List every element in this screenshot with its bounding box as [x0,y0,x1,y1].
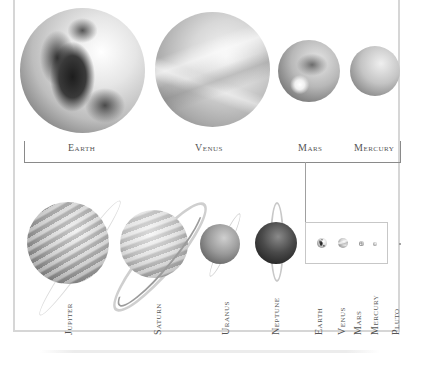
mini-mars [359,241,364,246]
label-inset-mercury: Mercury [369,295,380,335]
label-earth: Earth [68,142,95,153]
bracket-left-tick [24,141,25,162]
label-uranus: Uranus [220,301,231,335]
label-saturn: Saturn [152,303,163,335]
mini-venus [338,238,348,248]
label-inset-mars: Mars [352,310,363,335]
mini-pluto [399,243,401,245]
planet-neptune [255,222,297,264]
label-mercury: Mercury [354,142,394,153]
planet-jupiter [27,202,109,284]
label-venus: Venus [195,142,223,153]
label-inset-pluto: Pluto [390,308,401,335]
label-inset-earth: Earth [313,308,324,335]
scale-inset-box [305,222,388,264]
planet-mercury [350,46,400,96]
mini-mercury [373,242,377,246]
planet-mars [278,40,340,102]
mini-earth [317,238,327,248]
bracket-right-tick [400,141,401,163]
bracket-bottom [24,162,401,163]
label-jupiter: Jupiter [63,303,74,335]
planet-earth [20,8,145,133]
planet-uranus [200,224,240,264]
connector-line [305,162,306,222]
label-neptune: Neptune [270,297,281,335]
label-inset-venus: Venus [336,307,347,335]
planet-venus [155,12,270,127]
bottom-strip [40,350,380,353]
label-mars: Mars [298,142,323,153]
